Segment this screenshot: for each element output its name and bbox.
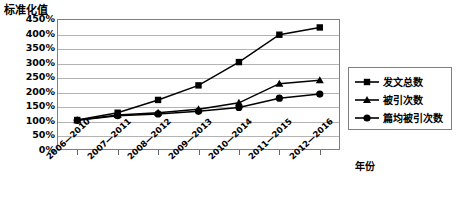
data-point-square — [195, 82, 201, 88]
data-point-circle — [363, 114, 370, 121]
x-axis-tick-labels: 2006—20102007—20112008—20122009—20132010… — [57, 155, 347, 200]
y-axis-tick-label: 100% — [3, 116, 55, 126]
legend-label: 发文总数 — [383, 77, 423, 88]
data-point-circle — [195, 108, 202, 115]
y-axis-tick-labels: 0%50%100%150%200%250%300%350%400%450% — [0, 19, 55, 150]
legend-item[interactable]: 发文总数 — [354, 73, 447, 91]
y-axis-tick-label: 200% — [3, 87, 55, 97]
data-point-square — [236, 59, 242, 65]
legend-item[interactable]: 被引次数 — [354, 91, 447, 109]
data-point-circle — [316, 91, 323, 98]
legend-marker-circle-icon — [354, 112, 380, 124]
y-axis-tick-label: 150% — [3, 101, 55, 111]
data-point-square — [276, 32, 282, 38]
data-point-square — [155, 97, 161, 103]
y-axis-tick-label: 350% — [3, 43, 55, 53]
series-layer — [57, 19, 340, 150]
data-point-circle — [235, 104, 242, 111]
y-axis-tick-label: 300% — [3, 58, 55, 68]
legend-item[interactable]: 篇均被引次数 — [354, 109, 447, 127]
y-axis-tick-label: 400% — [3, 29, 55, 39]
data-point-circle — [154, 110, 161, 117]
y-axis-tick-label: 450% — [3, 14, 55, 24]
legend-marker-square-icon — [354, 76, 380, 88]
legend-label: 篇均被引次数 — [383, 113, 443, 124]
chart-figure: 标准化值 0%50%100%150%200%250%300%350%400%45… — [0, 0, 458, 215]
data-point-circle — [74, 117, 81, 124]
data-point-square — [317, 24, 323, 30]
legend-marker-triangle-icon — [354, 94, 380, 106]
y-axis-tick-label: 250% — [3, 72, 55, 82]
data-point-circle — [276, 95, 283, 102]
legend-label: 被引次数 — [383, 95, 423, 106]
data-point-square — [364, 79, 370, 85]
y-axis-tick-label: 50% — [3, 130, 55, 140]
legend: 发文总数被引次数篇均被引次数 — [348, 67, 452, 130]
data-point-circle — [114, 112, 121, 119]
x-axis-title: 年份 — [355, 158, 375, 173]
